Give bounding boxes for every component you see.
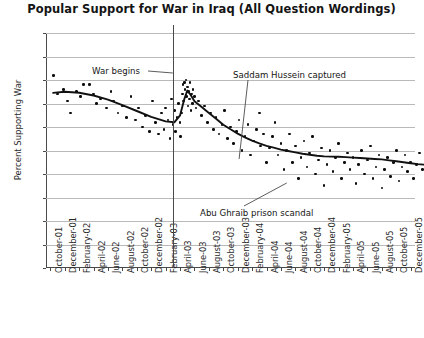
war-begins-event-line	[173, 25, 174, 268]
data-point	[421, 168, 424, 171]
leader-line-abu-ghraib	[244, 183, 287, 206]
leader-line-saddam-captured	[239, 80, 248, 159]
data-point	[418, 152, 421, 155]
x-tick-label: December-05	[414, 217, 424, 273]
plot-area: 1009080706050403020100 October-01Decembe…	[46, 33, 415, 268]
annotation-abu-ghraib: Abu Ghraib prison scandal	[200, 208, 313, 218]
y-axis-title: Percent Supporting War	[13, 60, 23, 200]
annotation-war-begins: War begins	[92, 66, 140, 76]
annotation-saddam-captured: Saddam Hussein captured	[233, 70, 346, 80]
leader-line-war-begins	[148, 71, 173, 73]
chart-title: Popular Support for War in Iraq (All Que…	[0, 2, 423, 16]
